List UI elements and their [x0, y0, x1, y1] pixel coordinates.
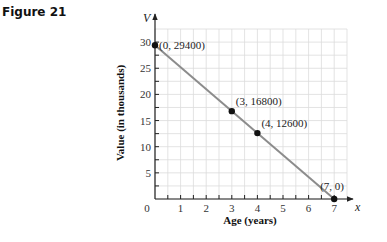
data-point-label: (0, 29400): [159, 39, 205, 52]
grid: [155, 29, 347, 199]
y-tick-label: 10: [140, 141, 152, 153]
data-point-label: (7, 0): [320, 180, 344, 193]
x-tick-label: 1: [178, 202, 184, 214]
data-point-label: (4, 12600): [261, 117, 307, 130]
chart-svg: 0123456751015202530 (0, 29400)(3, 16800)…: [0, 0, 387, 242]
y-tick-label: 5: [146, 167, 152, 179]
x-tick-label: 2: [203, 202, 209, 214]
x-tick-label: 4: [255, 202, 261, 214]
x-tick-label: 3: [229, 202, 235, 214]
x-tick-label: 7: [331, 202, 337, 214]
x-axis-variable: x: [354, 200, 361, 214]
data-point: [254, 130, 260, 136]
x-axis-title: Age (years): [223, 214, 277, 227]
data-point: [229, 108, 235, 114]
y-axis-title: Value (in thousands): [114, 65, 127, 162]
y-axis-variable: V: [143, 11, 152, 25]
data-point: [152, 42, 158, 48]
x-tick-label: 0: [144, 202, 150, 214]
tick-labels: 0123456751015202530: [140, 36, 337, 214]
data-point-label: (3, 16800): [236, 95, 282, 108]
point-labels: (0, 29400)(3, 16800)(4, 12600)(7, 0): [159, 39, 344, 193]
data-point: [331, 196, 337, 202]
y-tick-label: 30: [140, 36, 152, 48]
x-tick-label: 5: [280, 202, 286, 214]
x-tick-label: 6: [306, 202, 312, 214]
y-tick-label: 25: [140, 62, 152, 74]
y-tick-label: 15: [140, 115, 152, 127]
y-tick-label: 20: [140, 88, 152, 100]
